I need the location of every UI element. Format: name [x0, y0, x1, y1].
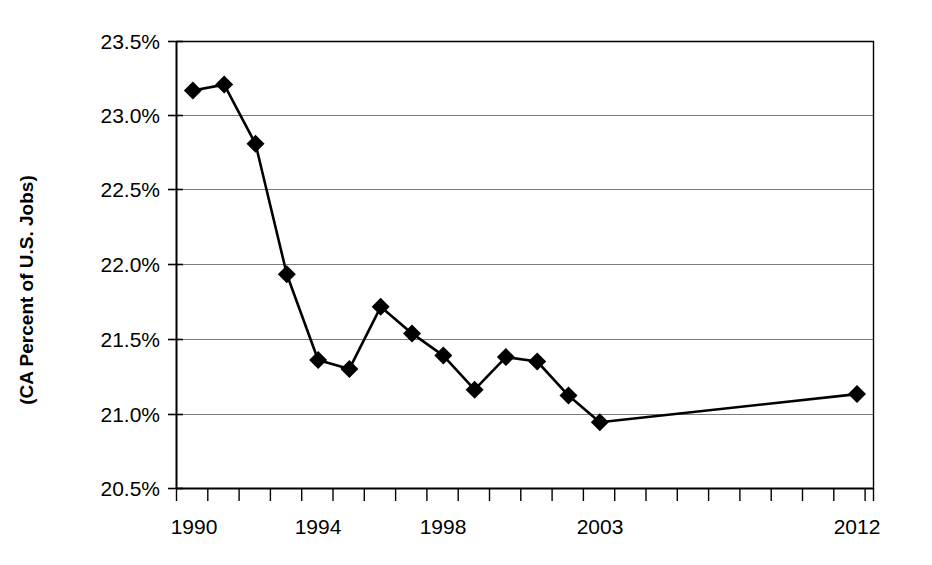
y-tick-label-2: 22.5%	[100, 178, 160, 201]
x-tick-label-1990: 1990	[171, 515, 218, 538]
x-tick-label-1998: 1998	[420, 515, 467, 538]
x-tick-label-1994: 1994	[295, 515, 342, 538]
y-tick-label-1: 23.0%	[100, 104, 160, 127]
y-tick-label-4: 21.5%	[100, 328, 160, 351]
x-tick-label-2012: 2012	[834, 515, 881, 538]
line-chart: 23.5% 23.0% 22.5% 22.0% 21.5% 21.0% 20.5…	[0, 0, 932, 565]
y-axis-title: (CA Percent of U.S. Jobs)	[16, 175, 37, 404]
chart-container: 23.5% 23.0% 22.5% 22.0% 21.5% 21.0% 20.5…	[0, 0, 932, 565]
y-tick-label-5: 21.0%	[100, 403, 160, 426]
y-tick-label-0: 23.5%	[100, 30, 160, 53]
y-tick-label-3: 22.0%	[100, 253, 160, 276]
x-tick-label-2003: 2003	[577, 515, 624, 538]
y-tick-label-6: 20.5%	[100, 477, 160, 500]
